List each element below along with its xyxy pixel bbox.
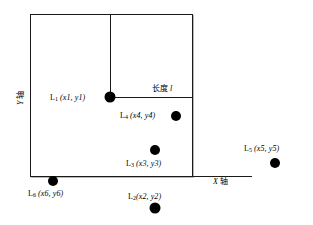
point-label-L5: L5 (x5, y5) <box>244 145 279 153</box>
point-label-L2-coordinates: (x2, y2) <box>136 192 161 201</box>
point-label-L4: L4 (x4, y4) <box>120 112 155 120</box>
point-label-L6: L6 (x6, y6) <box>28 190 63 198</box>
length-annotation-text: 长度 <box>152 84 168 93</box>
point-label-L1-coordinates: (x1, y1) <box>60 93 85 102</box>
vertical-guide-line <box>110 15 111 97</box>
point-label-L4-coordinates: (x4, y4) <box>130 111 155 120</box>
length-measure-line <box>110 97 193 98</box>
point-marker-L1 <box>105 92 116 103</box>
x-axis-label: X 轴 <box>213 178 228 186</box>
point-marker-L4 <box>171 111 181 121</box>
point-label-L3: L3 (x3, y3) <box>126 160 161 168</box>
x-axis-label-word: 轴 <box>220 177 228 186</box>
point-label-L2: L2(x2, y2) <box>128 193 161 201</box>
point-marker-L2 <box>150 203 161 214</box>
point-label-L1: L1 (x1, y1) <box>50 94 85 102</box>
point-label-L5-coordinates: (x5, y5) <box>254 144 279 153</box>
length-annotation-label: 长度 l <box>152 85 172 93</box>
y-axis-label-letter: Y <box>16 101 25 105</box>
point-marker-L3 <box>150 145 160 155</box>
length-annotation-symbol: l <box>170 84 172 93</box>
point-label-L3-coordinates: (x3, y3) <box>136 159 161 168</box>
point-label-L6-coordinates: (x6, y6) <box>38 189 63 198</box>
point-marker-L6 <box>48 176 58 186</box>
y-axis-label-word: 轴 <box>16 91 25 99</box>
point-marker-L5 <box>270 158 280 168</box>
figure-canvas: L1 (x1, y1) L4 (x4, y4) L3 (x3, y3) L5 (… <box>0 0 313 225</box>
y-axis-label: Y 轴 <box>17 91 25 105</box>
